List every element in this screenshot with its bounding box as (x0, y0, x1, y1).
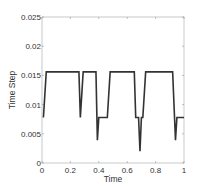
y-tick-label: 0.015 (21, 71, 42, 80)
y-tick-label: 0 (37, 159, 42, 168)
x-tick-label: 1 (182, 166, 187, 175)
y-tick-label: 0.005 (21, 130, 42, 139)
x-tick-label: 0.2 (65, 166, 77, 175)
y-axis-title: Time Step (7, 71, 17, 110)
time-step-chart: 00.20.40.60.81 00.0050.010.0150.020.025 … (0, 0, 197, 188)
y-tick-label: 0.01 (25, 101, 41, 110)
x-axis-title: Time (104, 174, 123, 184)
y-tick-label: 0.02 (25, 42, 41, 51)
x-tick-label: 0.6 (122, 166, 134, 175)
plot-area (42, 17, 184, 163)
x-tick-label: 0.8 (150, 166, 162, 175)
y-tick-label: 0.025 (21, 13, 42, 22)
